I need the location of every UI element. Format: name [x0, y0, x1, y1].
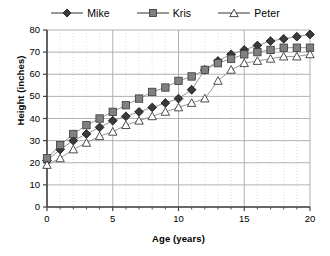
y-tick-30: 30 — [14, 135, 40, 146]
x-tick-0: 0 — [32, 213, 62, 224]
plot-area: Height (inches) Age (years) 010203040506… — [0, 0, 330, 256]
line-chart: Mike Kris Peter Height (inches) Ag — [0, 0, 330, 256]
x-tick-5: 5 — [98, 213, 128, 224]
y-tick-10: 10 — [14, 179, 40, 190]
x-tick-20: 20 — [295, 213, 325, 224]
y-tick-50: 50 — [14, 90, 40, 101]
x-tick-15: 15 — [229, 213, 259, 224]
y-tick-80: 80 — [14, 24, 40, 35]
y-tick-60: 60 — [14, 68, 40, 79]
y-tick-0: 0 — [14, 201, 40, 212]
y-tick-20: 20 — [14, 157, 40, 168]
x-axis-label: Age (years) — [47, 233, 310, 244]
y-tick-70: 70 — [14, 46, 40, 57]
x-tick-10: 10 — [164, 213, 194, 224]
y-tick-40: 40 — [14, 113, 40, 124]
